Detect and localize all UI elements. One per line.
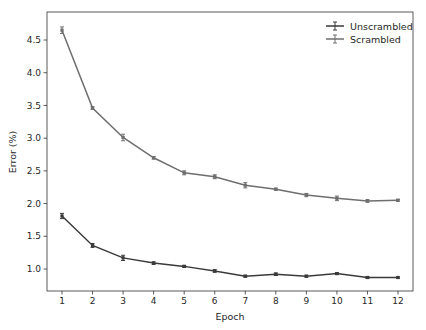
data-point [183, 265, 186, 268]
x-tick-label: 3 [120, 296, 126, 306]
legend-item-unscrambled: Unscrambled [326, 21, 413, 32]
legend-label: Scrambled [350, 34, 401, 45]
data-point [91, 244, 94, 247]
legend-item-scrambled: Scrambled [326, 34, 401, 45]
data-point [244, 184, 247, 187]
x-axis-label: Epoch [215, 311, 244, 322]
plot-area [60, 27, 400, 279]
data-point [152, 156, 155, 159]
data-point [396, 276, 399, 279]
data-point [121, 136, 124, 139]
y-tick-label: 1.5 [27, 231, 41, 241]
y-tick-label: 2.0 [27, 199, 42, 209]
x-tick-label: 5 [181, 296, 187, 306]
y-tick-label: 4.0 [27, 68, 42, 78]
data-point [274, 188, 277, 191]
line-chart: 123456789101112 1.01.52.02.53.03.54.04.5… [0, 0, 426, 330]
x-axis-ticks: 123456789101112 [59, 291, 404, 306]
legend-label: Unscrambled [350, 21, 413, 32]
x-tick-label: 9 [303, 296, 309, 306]
data-point [152, 262, 155, 265]
series-scrambled [60, 27, 400, 203]
data-point [91, 106, 94, 109]
data-point [366, 199, 369, 202]
x-tick-label: 7 [242, 296, 248, 306]
x-tick-label: 4 [151, 296, 157, 306]
series-unscrambled [60, 213, 400, 279]
x-tick-label: 11 [362, 296, 373, 306]
y-tick-label: 2.5 [27, 166, 41, 176]
data-point [335, 197, 338, 200]
y-tick-label: 4.5 [27, 35, 41, 45]
data-point [274, 273, 277, 276]
data-point [213, 269, 216, 272]
x-tick-label: 2 [90, 296, 96, 306]
y-axis-ticks: 1.01.52.02.53.03.54.04.5 [27, 35, 47, 274]
series-line [62, 216, 398, 278]
y-tick-label: 3.5 [27, 101, 41, 111]
series-line [62, 30, 398, 201]
y-tick-label: 1.0 [27, 264, 42, 274]
x-tick-label: 1 [59, 296, 65, 306]
data-point [244, 275, 247, 278]
data-point [121, 256, 124, 259]
data-point [60, 214, 63, 217]
x-tick-label: 12 [392, 296, 403, 306]
y-tick-label: 3.0 [27, 133, 42, 143]
data-point [305, 275, 308, 278]
data-point [366, 276, 369, 279]
data-point [183, 171, 186, 174]
data-point [60, 29, 63, 32]
x-tick-label: 8 [273, 296, 279, 306]
data-point [335, 272, 338, 275]
data-point [305, 193, 308, 196]
data-point [213, 175, 216, 178]
legend: UnscrambledScrambled [326, 21, 413, 45]
data-point [396, 199, 399, 202]
x-tick-label: 10 [331, 296, 343, 306]
y-axis-label: Error (%) [7, 131, 18, 174]
x-tick-label: 6 [212, 296, 218, 306]
